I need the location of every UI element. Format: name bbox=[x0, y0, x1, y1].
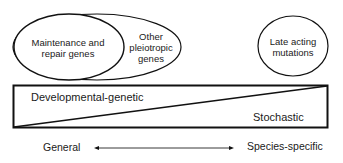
pleiotropic-line2: pleiotropic bbox=[124, 42, 178, 53]
axis-right-label: Species-specific bbox=[247, 140, 323, 153]
developmental-genetic-label: Developmental-genetic bbox=[31, 91, 144, 104]
maintenance-repair-label: Maintenance and repair genes bbox=[30, 37, 106, 59]
late-acting-line2: mutations bbox=[261, 47, 325, 58]
axis-arrowhead-right bbox=[229, 146, 234, 150]
pleiotropic-line1: Other bbox=[124, 31, 178, 42]
maintenance-repair-line1: Maintenance and bbox=[30, 37, 106, 48]
late-acting-line1: Late acting bbox=[261, 36, 325, 47]
maintenance-repair-line2: repair genes bbox=[30, 48, 106, 59]
late-acting-label: Late acting mutations bbox=[261, 36, 325, 58]
stochastic-label: Stochastic bbox=[253, 111, 304, 124]
diagram-shapes bbox=[0, 0, 343, 163]
axis-left-label: General bbox=[43, 141, 80, 154]
pleiotropic-genes-label: Other pleiotropic genes bbox=[124, 31, 178, 64]
pleiotropic-line3: genes bbox=[124, 53, 178, 64]
axis-arrowhead-left bbox=[94, 146, 99, 150]
